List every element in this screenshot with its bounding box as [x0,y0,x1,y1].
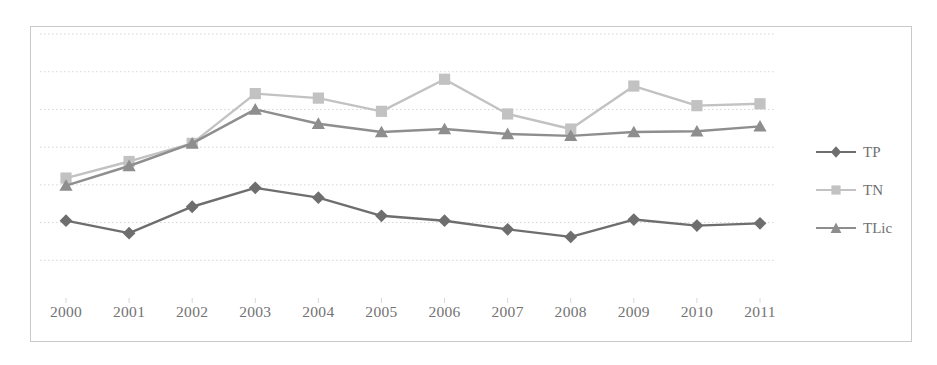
data-point-marker [501,223,514,236]
data-point-marker [186,200,199,213]
series-line [66,188,760,237]
legend-item-tp[interactable]: TP [815,133,925,171]
legend-marker-square-icon [815,181,857,199]
data-point-marker [754,217,767,230]
data-point-marker [376,106,387,117]
legend-item-tn[interactable]: TN [815,171,925,209]
x-axis-label: 2011 [744,303,776,321]
legend-marker-triangle-icon [815,219,857,237]
data-point-marker [564,231,577,244]
x-axis-label: 2002 [176,303,208,321]
data-point-marker [691,100,702,111]
data-point-marker [627,213,640,226]
chart-container: 2000200120022003200420052006200720082009… [0,0,937,365]
data-point-marker [754,98,765,109]
chart-plot-svg [38,34,778,298]
x-axis-label: 2003 [239,303,271,321]
data-point-marker [249,103,262,115]
x-axis-label: 2005 [365,303,397,321]
x-axis-label: 2006 [428,303,460,321]
data-point-marker [375,209,388,222]
chart-legend: TP TN TLic [815,133,925,247]
data-point-marker [249,181,262,194]
series-layer [59,74,766,244]
data-point-marker [123,227,136,240]
x-axis-label: 2000 [50,303,82,321]
data-point-marker [439,74,450,85]
legend-item-tlic[interactable]: TLic [815,209,925,247]
legend-marker-diamond-icon [815,143,857,161]
data-point-marker [60,214,73,227]
plot-area [38,34,778,298]
x-axis-label: 2008 [555,303,587,321]
data-point-marker [502,108,513,119]
x-axis-label: 2001 [113,303,145,321]
data-point-marker [438,214,451,227]
x-axis-label: 2010 [681,303,713,321]
series-tp [60,181,767,243]
legend-label-tp: TP [863,144,881,161]
x-axis-label: 2004 [302,303,334,321]
data-point-marker [691,219,704,232]
series-line [66,79,760,178]
legend-label-tn: TN [863,182,883,199]
gridlines [40,34,776,260]
data-point-marker [313,93,324,104]
series-tn [60,74,765,184]
data-point-marker [628,80,639,91]
data-point-marker [250,88,261,99]
legend-label-tlic: TLic [863,220,892,237]
x-axis-label: 2007 [492,303,524,321]
x-axis-labels: 2000200120022003200420052006200720082009… [38,297,778,327]
data-point-marker [312,191,325,204]
x-axis-label: 2009 [618,303,650,321]
